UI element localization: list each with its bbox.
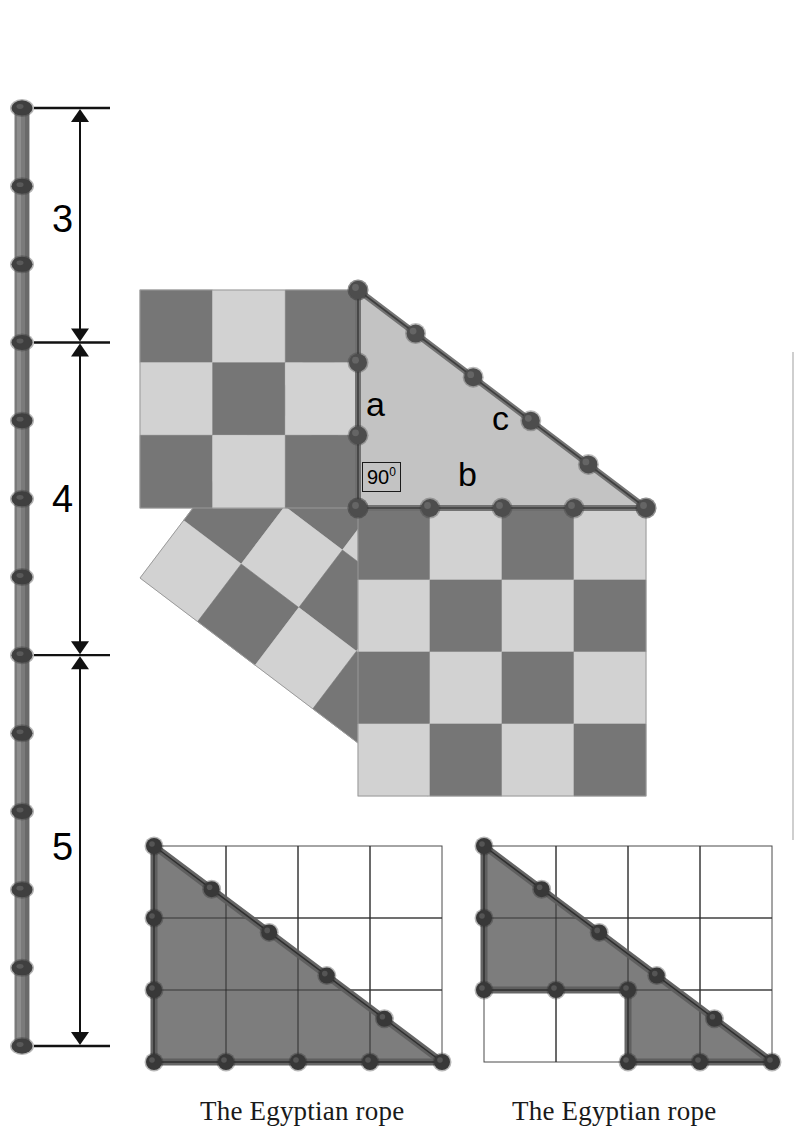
right-panel-knot [548,982,564,998]
ruler-knot-highlight [17,573,24,578]
ruler-knot-highlight [17,182,24,187]
left-panel-knot [218,1054,234,1070]
right-panel-knot-highlight [767,1057,773,1063]
square-b-cell [358,580,430,652]
rope-knot [349,354,367,372]
ruler-knot-highlight [17,886,24,891]
dim-arrowhead-up [71,109,89,122]
knot-highlight [568,502,575,509]
right-panel-knot [534,881,550,897]
knot-highlight [352,429,359,436]
left-panel-knot [146,982,162,998]
right-panel-knot [649,968,665,984]
ruler-knot-highlight [17,729,24,734]
left-panel-knot-highlight [221,1057,227,1063]
knot-highlight [410,328,417,335]
caption-left-panel: The Egyptian rope [200,1096,404,1126]
rope-knot [349,499,367,517]
left-panel-knot-highlight [149,841,155,847]
rope-knot [349,281,367,299]
right-panel-knot [692,1054,708,1070]
knot-highlight [352,502,359,509]
knot-highlight [424,502,431,509]
square-a-cell [285,290,358,363]
square-b-cell [358,724,430,796]
rope-knot [637,499,655,517]
ruler-knot-highlight [17,808,24,813]
dimension-label-3: 3 [52,198,73,241]
right-panel-knot-highlight [710,1014,716,1020]
square-a-cell [140,363,213,436]
ruler-knot-highlight [17,651,24,656]
left-panel-knot [146,910,162,926]
square-b-cell [430,580,502,652]
ruler-knot-highlight [17,495,24,500]
right-panel-knot-highlight [623,985,629,991]
left-panel-knot-highlight [322,971,328,977]
left-panel-knot-highlight [149,913,155,919]
left-panel-knot-highlight [149,985,155,991]
side-label-c: c [492,399,509,438]
left-panel-knot-highlight [437,1057,443,1063]
right-panel-knot-highlight [594,928,600,934]
square-b-cell [358,508,430,580]
right-panel-knot [476,838,492,854]
right-panel-knot-highlight [551,985,557,991]
rope-knot [565,499,583,517]
knot-highlight [352,284,359,291]
degree-symbol: 0 [389,465,396,479]
egyptian-rope-lshape-panel [475,837,782,1072]
rope-knot [522,412,540,430]
right-panel-knot [476,910,492,926]
side-label-b: b [458,455,477,494]
right-panel-knot-highlight [652,971,658,977]
left-panel-knot-highlight [365,1057,371,1063]
dim-arrowhead-up [71,344,89,357]
left-panel-knot-highlight [207,884,213,890]
square-a-cell [140,435,213,508]
square-b-cell [502,580,574,652]
right-panel-knot-highlight [623,1057,629,1063]
knot-highlight [640,502,647,509]
dim-arrowhead-down [71,1032,89,1045]
dim-arrowhead-down [71,329,89,342]
rope-knot [464,368,482,386]
left-panel-knot [376,1011,392,1027]
ruler-knot-highlight [17,1042,24,1047]
left-panel-knot [319,968,335,984]
dim-arrowhead-down [71,641,89,654]
knot-highlight [496,502,503,509]
right-panel-knot-highlight [537,884,543,890]
left-panel-knot [146,1054,162,1070]
left-panel-knot [204,881,220,897]
left-panel-knot [261,924,277,940]
left-panel-knot-highlight [293,1057,299,1063]
left-panel-knot-highlight [380,1014,386,1020]
square-a-cell [213,435,286,508]
dimension-arrows [34,108,110,1046]
caption-right-panel: The Egyptian rope [512,1096,716,1126]
rope-knot [421,499,439,517]
square-a-cell [213,363,286,436]
dim-arrowhead-up [71,656,89,669]
side-label-a: a [366,385,385,424]
right-panel-knot [764,1054,780,1070]
left-panel-knot-highlight [149,1057,155,1063]
square-a-cell [285,435,358,508]
knot-highlight [467,371,474,378]
right-panel-knot-highlight [479,913,485,919]
square-a-cell [140,290,213,363]
rope-knot [407,325,425,343]
ruler-knot-highlight [17,964,24,969]
left-panel-knot [434,1054,450,1070]
square-on-side-a [140,290,358,508]
ruler-knot-highlight [17,417,24,422]
square-b-cell [430,652,502,724]
square-b-cell [574,652,646,724]
square-b-cell [502,724,574,796]
right-panel-knot-highlight [479,985,485,991]
square-a-cell [213,290,286,363]
square-a-cell [285,363,358,436]
square-b-cell [430,508,502,580]
rope-knot [579,455,597,473]
